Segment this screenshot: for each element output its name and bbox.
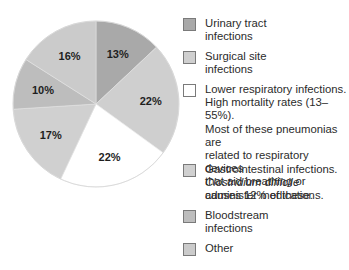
legend-swatch bbox=[183, 210, 196, 223]
legend-label: Other bbox=[205, 242, 233, 255]
legend-item-bloodstream: Bloodstream infections bbox=[183, 209, 268, 235]
legend-label: Surgical site infections bbox=[205, 50, 267, 76]
slice-percent-label: 17% bbox=[40, 129, 62, 141]
legend-swatch bbox=[183, 18, 196, 31]
pie-chart: 13%22%22%17%10%16% bbox=[0, 0, 190, 200]
legend-item-urinary-tract: Urinary tract infections bbox=[183, 17, 267, 43]
slice-percent-label: 22% bbox=[99, 151, 121, 163]
legend-item-gastrointestinal: Gastrointestinal infections. Clostridium… bbox=[183, 163, 338, 203]
legend-swatch bbox=[183, 164, 196, 177]
legend-swatch bbox=[183, 84, 196, 97]
legend-label: Bloodstream infections bbox=[205, 209, 268, 235]
slice-percent-label: 16% bbox=[59, 50, 81, 62]
legend-item-surgical-site: Surgical site infections bbox=[183, 50, 267, 76]
legend-swatch bbox=[183, 51, 196, 64]
slice-percent-label: 13% bbox=[107, 48, 129, 60]
legend-label: Urinary tract infections bbox=[205, 17, 267, 43]
slice-percent-label: 10% bbox=[32, 84, 54, 96]
legend-item-other: Other bbox=[183, 242, 233, 256]
slice-percent-label: 22% bbox=[140, 95, 162, 107]
legend-label: Gastrointestinal infections. Clostridium… bbox=[205, 163, 338, 203]
legend-swatch bbox=[183, 243, 196, 256]
